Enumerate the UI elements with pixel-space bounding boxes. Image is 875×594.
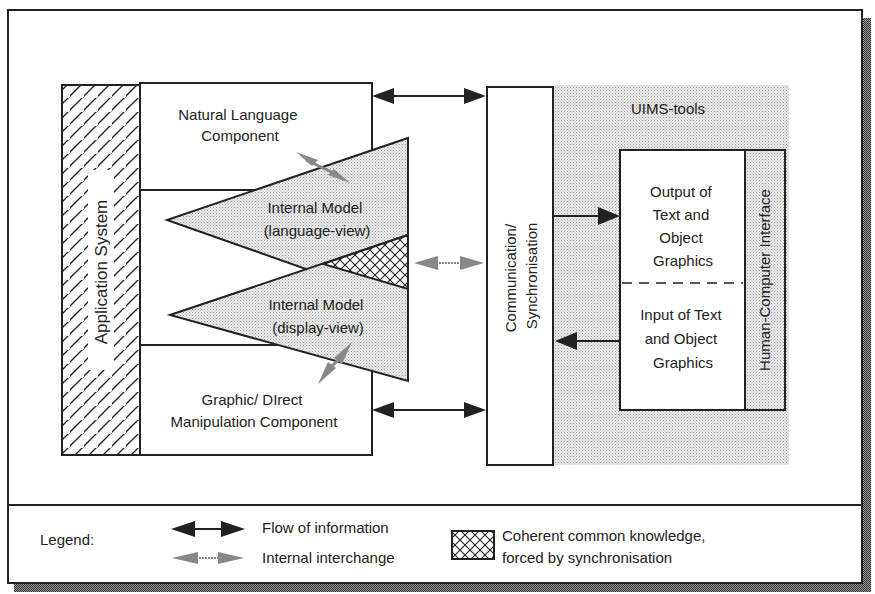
application-system-label: Application System bbox=[92, 200, 111, 345]
uims-tools-label: UIMS-tools bbox=[631, 100, 705, 117]
legend-flow-label: Flow of information bbox=[262, 519, 389, 536]
legend-coherent-swatch-icon bbox=[452, 531, 494, 559]
input-label: Input of Text and Object Graphics bbox=[640, 306, 726, 371]
diagram-canvas: UIMS-tools Application System Natural La… bbox=[0, 0, 875, 594]
legend-title: Legend: bbox=[40, 531, 94, 548]
communication-synchronisation-block bbox=[487, 87, 553, 465]
legend-internal-label: Internal interchange bbox=[262, 549, 395, 566]
hci-label: Human-Computer Interface bbox=[756, 189, 773, 371]
